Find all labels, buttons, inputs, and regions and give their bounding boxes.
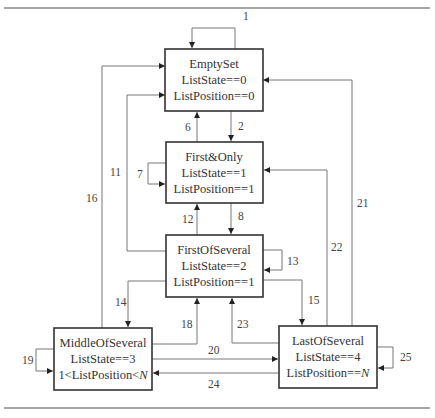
- edge-18: 18: [152, 298, 197, 344]
- svg-text:16: 16: [86, 192, 98, 204]
- svg-text:22: 22: [331, 241, 343, 253]
- state-first-and-only: First&Only ListState==1 ListPosition==1: [166, 142, 263, 203]
- svg-text:ListState==4: ListState==4: [296, 350, 362, 364]
- svg-text:LastOfSeveral: LastOfSeveral: [292, 334, 365, 348]
- svg-text:ListState==3: ListState==3: [71, 352, 136, 366]
- svg-text:11: 11: [110, 166, 121, 178]
- svg-text:ListState==1: ListState==1: [182, 166, 247, 180]
- edge-21: 21: [263, 80, 369, 326]
- edge-1: 1: [192, 10, 249, 49]
- svg-text:15: 15: [308, 294, 320, 306]
- svg-text:1<ListPosition<N: 1<ListPosition<N: [58, 368, 148, 382]
- state-emptyset: EmptySet ListState==0 ListPosition==0: [165, 49, 263, 111]
- svg-text:First&Only: First&Only: [185, 150, 243, 164]
- svg-text:8: 8: [238, 210, 244, 222]
- edge-7: 7: [137, 163, 166, 184]
- svg-text:ListPosition==1: ListPosition==1: [174, 275, 255, 289]
- edge-12: 12: [182, 204, 197, 235]
- edge-22: 22: [264, 170, 343, 326]
- svg-text:7: 7: [137, 168, 143, 180]
- svg-text:1: 1: [243, 10, 249, 22]
- svg-text:12: 12: [182, 213, 194, 225]
- edge-24: 24: [153, 373, 279, 390]
- state-first-of-several: FirstOfSeveral ListState==2 ListPosition…: [166, 235, 263, 297]
- edge-14: 14: [115, 281, 166, 327]
- edge-16: 16: [86, 66, 165, 328]
- svg-text:21: 21: [357, 197, 369, 209]
- svg-text:24: 24: [208, 378, 220, 390]
- svg-text:EmptySet: EmptySet: [189, 57, 239, 71]
- state-middle-of-several: MiddleOfSeveral ListState==3 1<ListPosit…: [54, 328, 152, 390]
- edge-13: 13: [263, 250, 299, 270]
- edge-25: 25: [377, 347, 412, 368]
- svg-text:ListPosition==N: ListPosition==N: [287, 366, 371, 380]
- svg-text:20: 20: [208, 344, 220, 356]
- state-last-of-several: LastOfSeveral ListState==4 ListPosition=…: [279, 326, 377, 388]
- edge-20: 20: [152, 344, 278, 359]
- svg-text:18: 18: [181, 318, 193, 330]
- edge-23: 23: [232, 298, 279, 343]
- svg-text:19: 19: [22, 354, 34, 366]
- edge-19: 19: [22, 349, 54, 371]
- edge-6: 6: [185, 112, 197, 142]
- svg-text:6: 6: [185, 121, 191, 133]
- svg-text:MiddleOfSeveral: MiddleOfSeveral: [60, 336, 147, 350]
- svg-text:25: 25: [400, 351, 412, 363]
- svg-text:ListPosition==0: ListPosition==0: [174, 89, 255, 103]
- edge-2: 2: [231, 111, 244, 141]
- svg-text:2: 2: [238, 120, 244, 132]
- svg-text:FirstOfSeveral: FirstOfSeveral: [177, 243, 251, 257]
- edge-8: 8: [231, 203, 244, 234]
- edge-15: 15: [263, 280, 320, 325]
- svg-text:14: 14: [115, 296, 127, 308]
- svg-text:13: 13: [287, 255, 299, 267]
- svg-text:ListPosition==1: ListPosition==1: [174, 182, 255, 196]
- state-diagram: 1 2 6 7 8 11 12 13 14 15 16 18: [0, 0, 435, 418]
- svg-text:ListState==0: ListState==0: [182, 73, 247, 87]
- svg-text:23: 23: [237, 318, 249, 330]
- svg-text:ListState==2: ListState==2: [182, 259, 247, 273]
